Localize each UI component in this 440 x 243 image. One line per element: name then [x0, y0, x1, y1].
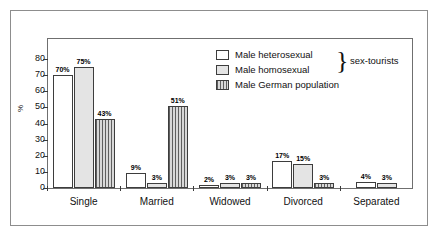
legend-item-male-german-population[interactable]: Male German population: [216, 78, 339, 91]
legend-swatch-male-homosexual: [216, 65, 229, 75]
bar-widowed-male-heterosexual: [199, 185, 219, 188]
bar-married-male-homosexual: [147, 183, 167, 188]
bar-value-label-single-male-homosexual: 75%: [70, 58, 98, 65]
brace-icon: }: [336, 48, 347, 75]
y-tick-label-60: 60: [20, 86, 45, 95]
bar-value-label-single-male-german-population: 43%: [91, 110, 119, 117]
legend-swatch-male-german-population: [216, 80, 229, 90]
bar-married-male-german-population: [168, 106, 188, 188]
bar-divorced-male-heterosexual: [272, 161, 292, 188]
legend-label-male-homosexual: Male homosexual: [235, 65, 309, 75]
bar-value-label-divorced-male-german-population: 3%: [310, 174, 338, 181]
legend-label-male-german-population: Male German population: [235, 80, 339, 90]
x-label-single: Single: [47, 196, 120, 207]
x-label-divorced: Divorced: [267, 196, 340, 207]
y-tick-label-50: 50: [20, 102, 45, 111]
y-tick-label-70: 70: [20, 70, 45, 79]
y-tick-label-40: 40: [20, 119, 45, 128]
bar-single-male-german-population: [95, 119, 115, 188]
bar-value-label-widowed-male-german-population: 3%: [237, 174, 265, 181]
y-tick-label-30: 30: [20, 135, 45, 144]
bar-widowed-male-homosexual: [220, 183, 240, 188]
y-tick-label-10: 10: [20, 167, 45, 176]
x-sep-0: [47, 186, 48, 191]
x-sep-4: [340, 186, 341, 191]
legend: Male heterosexual Male homosexual Male G…: [216, 48, 391, 92]
legend-item-male-homosexual[interactable]: Male homosexual: [216, 63, 309, 76]
x-sep-1: [120, 186, 121, 191]
legend-item-male-heterosexual[interactable]: Male heterosexual: [216, 48, 313, 61]
x-label-married: Married: [120, 196, 193, 207]
y-tick-mark-30: [43, 140, 48, 141]
y-tick-mark-80: [43, 59, 48, 60]
y-tick-mark-10: [43, 172, 48, 173]
bar-separated-male-heterosexual: [356, 182, 376, 188]
x-sep-3: [267, 186, 268, 191]
bar-value-label-divorced-male-homosexual: 15%: [289, 155, 317, 162]
y-tick-mark-40: [43, 124, 48, 125]
x-sep-2: [193, 186, 194, 191]
bar-value-label-married-male-homosexual: 3%: [143, 174, 171, 181]
bar-widowed-male-german-population: [241, 183, 261, 188]
bar-value-label-single-male-heterosexual: 70%: [49, 66, 77, 73]
bar-value-label-married-male-heterosexual: 9%: [122, 164, 150, 171]
y-tick-mark-70: [43, 75, 48, 76]
y-tick-label-0: 0: [20, 183, 45, 192]
legend-swatch-male-heterosexual: [216, 50, 229, 60]
bar-divorced-male-german-population: [314, 183, 334, 188]
legend-label-male-heterosexual: Male heterosexual: [235, 50, 313, 60]
legend-brace-label: sex-tourists: [350, 55, 399, 66]
bar-chart: % 01020304050607080 70%75%43%9%3%51%2%3%…: [0, 0, 440, 243]
y-tick-mark-60: [43, 91, 48, 92]
y-tick-label-20: 20: [20, 151, 45, 160]
y-tick-label-80: 80: [20, 54, 45, 63]
x-label-widowed: Widowed: [193, 196, 266, 207]
bar-single-male-homosexual: [74, 67, 94, 188]
bar-single-male-heterosexual: [53, 75, 73, 188]
bar-value-label-married-male-german-population: 51%: [164, 97, 192, 104]
y-tick-mark-50: [43, 107, 48, 108]
bar-separated-male-homosexual: [377, 183, 397, 188]
x-label-separated: Separated: [340, 196, 413, 207]
y-tick-mark-20: [43, 156, 48, 157]
bar-value-label-separated-male-homosexual: 3%: [373, 174, 401, 181]
